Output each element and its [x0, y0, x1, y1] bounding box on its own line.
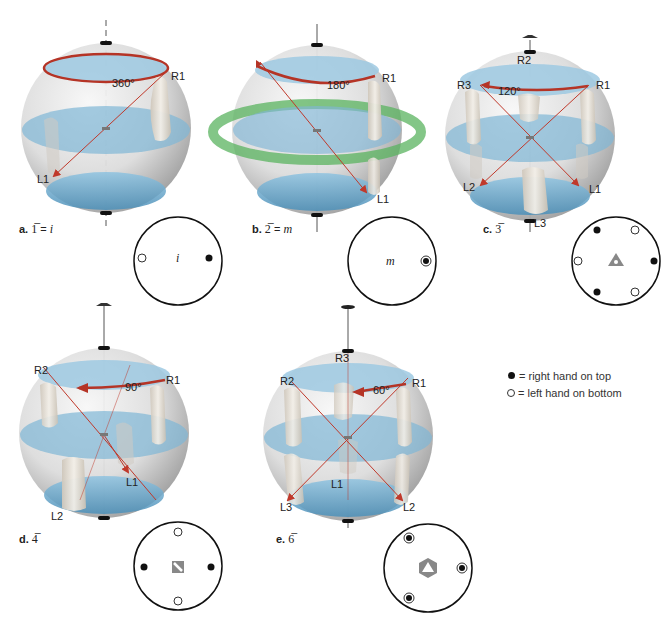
filled-dot-icon: [508, 372, 515, 379]
filled-dot-icon: [594, 289, 601, 296]
axis-top-marker: [98, 346, 110, 350]
left-hand-icon: [368, 157, 380, 195]
legend-open-label: = left hand on bottom: [518, 387, 622, 399]
right-hand-icon: [334, 382, 354, 420]
open-circle-icon: [631, 288, 639, 296]
filled-dot-icon: [141, 564, 148, 571]
axis-hexagon-icon: [341, 305, 355, 309]
filled-dot-icon: [423, 258, 429, 264]
three-fold-triangle-icon: [608, 253, 624, 266]
hand-label-r1: R1: [382, 72, 396, 84]
left-hand-icon: [394, 453, 410, 505]
hand-label-r3: R3: [335, 352, 349, 364]
left-hand-icon: [116, 422, 134, 466]
coincident-points-icon: [457, 563, 467, 573]
sphere-a: 360° R1 L1: [0, 0, 230, 230]
right-hand-icon: [150, 385, 166, 444]
axis-square-icon: [96, 303, 112, 306]
legend-row-filled: = right hand on top: [507, 367, 622, 384]
hand-label-r2: R2: [280, 375, 294, 387]
inversion-center: [102, 127, 110, 130]
hand-label-r1: R1: [412, 377, 426, 389]
sphere-c: 120° R1 R2 R3 L1 L2 L3: [430, 0, 670, 235]
sphere-e: 60° R1 R2 R3 L1 L2 L3: [230, 290, 470, 530]
inversion-symbol: i: [176, 251, 179, 265]
stereogram-c: [568, 213, 664, 309]
inversion-center: [526, 136, 534, 139]
hand-label-l1: L1: [331, 478, 343, 490]
hand-label-r1: R1: [596, 79, 610, 91]
inversion-center: [100, 433, 108, 436]
open-circle-icon: [631, 226, 639, 234]
right-hand-icon: [396, 387, 412, 446]
rotation-angle-label: 120°: [498, 85, 521, 97]
axis-top-marker: [100, 41, 112, 45]
mirror-symbol: m: [386, 254, 395, 268]
legend-filled-label: = right hand on top: [519, 370, 611, 382]
caption-c: c. 3̅: [483, 222, 501, 237]
axis-bottom-marker: [311, 213, 323, 217]
coincident-points-icon: [404, 593, 414, 603]
open-circle-icon: [507, 389, 515, 397]
left-hand-icon: [470, 143, 482, 179]
caption-e: e. 6̅: [276, 532, 294, 547]
bottom-plane: [46, 172, 166, 210]
hand-label-l1: L1: [126, 476, 138, 488]
open-circle-icon: [138, 254, 146, 262]
filled-dot-icon: [206, 255, 213, 262]
caption-d: d. 4̅: [19, 532, 38, 547]
hand-label-r2: R2: [34, 364, 48, 376]
caption-b: b. 2̅ = m: [252, 222, 292, 237]
left-hand-icon: [62, 457, 86, 511]
right-hand-icon: [465, 89, 481, 144]
stereogram-e: [380, 520, 476, 616]
hand-label-r3: R3: [457, 79, 471, 91]
caption-a: a. 1̅ = i: [19, 222, 53, 237]
hand-label-r2: R2: [517, 54, 531, 66]
stereogram-d: [130, 518, 226, 614]
filled-dot-icon: [594, 227, 601, 234]
right-hand-icon: [284, 387, 302, 446]
right-hand-icon: [580, 89, 596, 144]
hand-label-r1: R1: [166, 374, 180, 386]
coincident-points-icon: [404, 533, 414, 543]
open-circle-icon: [174, 528, 182, 536]
rotation-angle-label: 360°: [112, 77, 135, 89]
legend-row-open: = left hand on bottom: [507, 384, 622, 401]
hand-label-l1: L1: [37, 173, 49, 185]
left-hand-icon: [522, 167, 548, 214]
top-plane: [38, 360, 170, 390]
hand-label-l2: L2: [403, 501, 415, 513]
axis-bottom-marker: [342, 519, 354, 523]
right-hand-icon: [40, 382, 58, 427]
axis-bottom-marker: [100, 211, 112, 215]
filled-dot-icon: [208, 564, 215, 571]
right-hand-icon: [368, 81, 382, 141]
bottom-plane: [257, 173, 377, 211]
inversion-center: [313, 129, 321, 132]
legend: = right hand on top = left hand on botto…: [507, 367, 622, 401]
rotation-angle-label: 60°: [373, 384, 390, 396]
rotation-angle-label: 180°: [327, 79, 350, 91]
left-hand-icon: [576, 143, 588, 179]
hand-label-l3: L3: [280, 501, 292, 513]
hand-label-r1: R1: [171, 70, 185, 82]
hand-label-l2: L2: [463, 181, 475, 193]
inversion-center-dot: [614, 260, 618, 264]
hand-label-l1: L1: [589, 183, 601, 195]
axis-bottom-marker: [98, 516, 110, 520]
hand-label-l3: L3: [534, 217, 546, 229]
axis-triangle-icon: [522, 35, 538, 38]
open-circle-icon: [174, 597, 182, 605]
sphere-d: 90° R1 R2 L1 L2: [0, 290, 240, 525]
axis-top-marker: [311, 43, 323, 47]
rotation-angle-label: 90°: [125, 381, 142, 393]
right-hand-icon: [518, 93, 540, 122]
inversion-center: [344, 436, 352, 439]
sphere-b: 180° R1 L1: [200, 0, 430, 235]
filled-dot-icon: [651, 258, 658, 265]
hand-label-l2: L2: [51, 510, 63, 522]
hand-label-l1: L1: [377, 193, 389, 205]
top-plane: [460, 64, 600, 96]
open-circle-icon: [574, 257, 582, 265]
